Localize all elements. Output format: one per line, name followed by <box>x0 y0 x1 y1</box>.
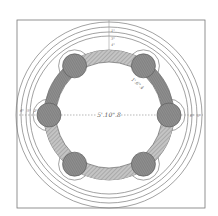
left-dim-3: 2" <box>33 109 38 113</box>
boss <box>63 152 87 176</box>
top-dimension-labels: 1" 3" 4" <box>110 29 115 47</box>
right-dim-1: 6" <box>190 114 194 118</box>
left-dimension-labels: 6" 5" 2" <box>20 109 38 113</box>
center-dimension-label: 5'.10".8 <box>97 111 121 118</box>
right-dimension-labels: 6" 5" <box>190 114 201 118</box>
boss <box>131 152 155 176</box>
left-dim-1: 6" <box>20 109 24 113</box>
right-dim-2: 5" <box>197 114 201 118</box>
flange-drawing: 5'.10".8 1'.6".4 1" 3" 4" 6" 5" 2" 6" 5" <box>0 0 218 216</box>
top-dim-3: 4" <box>110 43 115 47</box>
left-dim-2: 5" <box>27 109 31 113</box>
top-dim-1: 1" <box>111 29 115 33</box>
boss <box>63 54 87 78</box>
diagram-canvas: 5'.10".8 1'.6".4 1" 3" 4" 6" 5" 2" 6" 5" <box>0 0 218 216</box>
boss <box>131 54 155 78</box>
top-dim-2: 3" <box>111 37 115 41</box>
